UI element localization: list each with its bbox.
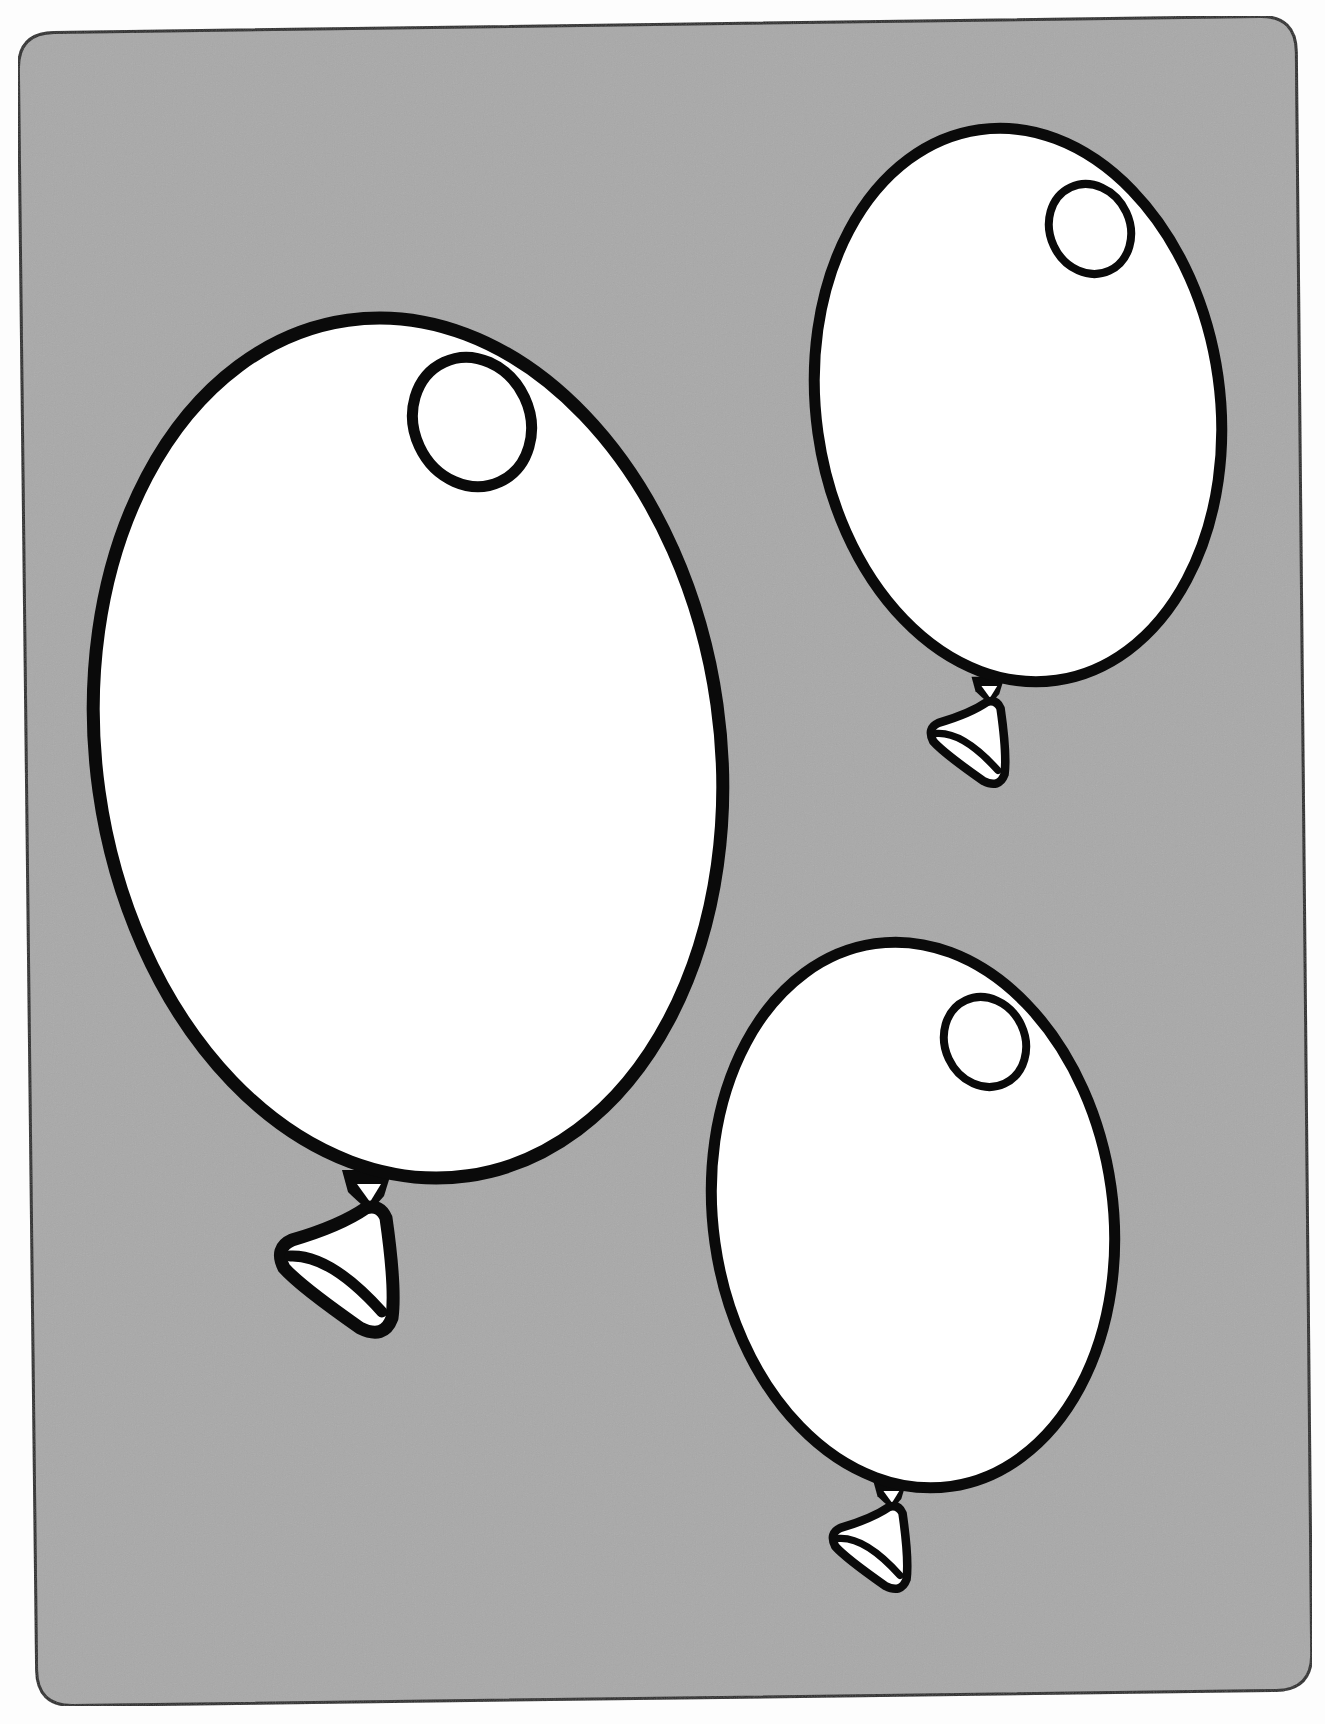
- coloring-page: Balloons coloring page: [0, 0, 1325, 1724]
- balloons-illustration: [0, 0, 1325, 1724]
